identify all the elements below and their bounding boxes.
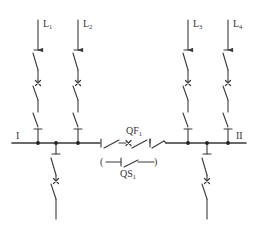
feeder-l4-label: L4 bbox=[233, 18, 243, 30]
feeder-l4 bbox=[223, 20, 232, 143]
breaker-qf1-label: QF1 bbox=[126, 125, 142, 137]
disconnector-qs1-label: QS1 bbox=[120, 168, 136, 180]
qs1-open-paren: ( bbox=[100, 156, 104, 168]
qs1-close-paren: ) bbox=[154, 156, 157, 168]
feeder-l2 bbox=[73, 20, 82, 143]
feeder-l3 bbox=[183, 20, 192, 143]
feeder-l2-label: L2 bbox=[83, 18, 92, 30]
bus-tie-breaker-qf1 bbox=[101, 139, 166, 148]
bypass-disconnector-qs1 bbox=[106, 158, 154, 167]
incoming-bus-2 bbox=[202, 143, 211, 219]
incoming-bus-1 bbox=[51, 143, 60, 219]
feeder-l1-label: L1 bbox=[43, 18, 52, 30]
feeder-l3-label: L3 bbox=[193, 18, 202, 30]
feeder-l1 bbox=[33, 20, 42, 143]
busbar-1-label: I bbox=[16, 130, 19, 141]
main-wiring-diagram: I II L1 L2 L3 L4 QF1 ( ) QS1 bbox=[0, 0, 257, 229]
busbar-2-label: II bbox=[236, 130, 243, 141]
